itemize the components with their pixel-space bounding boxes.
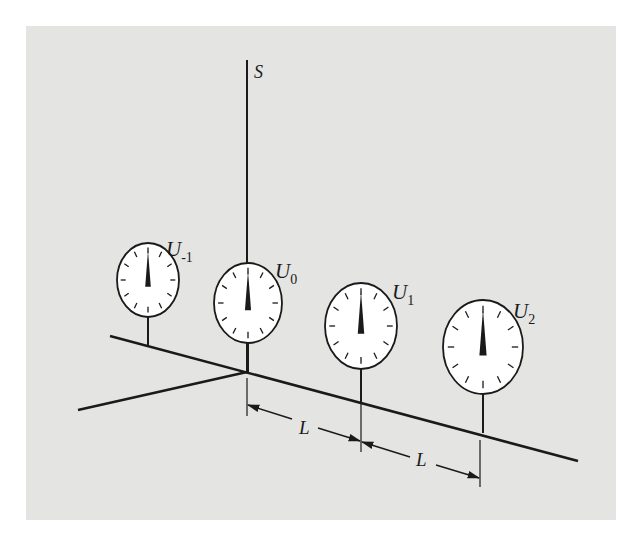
diagram-canvas: S L L U-1U0U1U2 <box>0 0 632 539</box>
dial-label-subscript: 2 <box>528 312 535 327</box>
figure-panel <box>26 26 616 520</box>
dial-label-subscript: 0 <box>290 272 297 287</box>
dimension-label-1: L <box>298 417 310 438</box>
dial-label-subscript: 1 <box>407 293 414 308</box>
dial-label-subscript: -1 <box>181 250 193 265</box>
dimension-label-2: L <box>415 449 427 470</box>
s-axis-label: S <box>254 62 263 82</box>
